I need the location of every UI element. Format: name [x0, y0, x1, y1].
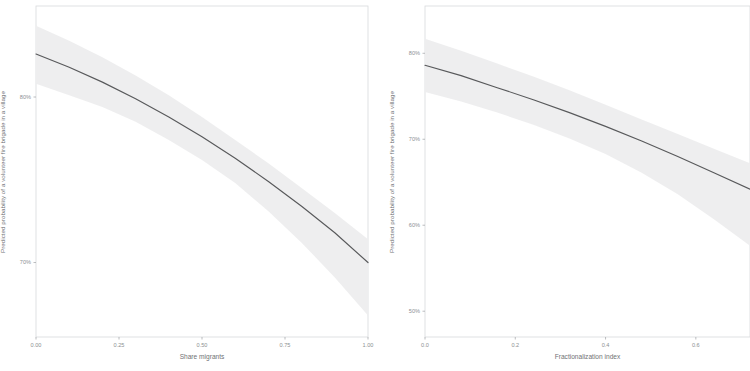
- y-tick-label: 60%: [395, 222, 420, 228]
- x-tick-label: 0.2: [495, 342, 535, 348]
- chart-panel-share-migrants: Predicted probability of a volunteer fir…: [0, 0, 375, 371]
- y-tick-label: 70%: [6, 259, 31, 265]
- plot-area: [375, 0, 750, 371]
- chart-panel-fractionalization: Predicted probability of a volunteer fir…: [375, 0, 750, 371]
- x-tick-label: 0.75: [265, 342, 305, 348]
- y-tick-label: 50%: [395, 308, 420, 314]
- x-tick-label: 0.0: [405, 342, 445, 348]
- x-tick-label: 0.4: [586, 342, 626, 348]
- y-tick-label: 80%: [395, 50, 420, 56]
- y-tick-label: 80%: [6, 94, 31, 100]
- x-tick-label: 0.50: [182, 342, 222, 348]
- x-tick-label: 0.6: [676, 342, 716, 348]
- x-tick-label: 0.25: [99, 342, 139, 348]
- figure-container: Predicted probability of a volunteer fir…: [0, 0, 750, 371]
- plot-area: [0, 0, 375, 371]
- x-tick-label: 0.00: [16, 342, 56, 348]
- y-tick-label: 70%: [395, 136, 420, 142]
